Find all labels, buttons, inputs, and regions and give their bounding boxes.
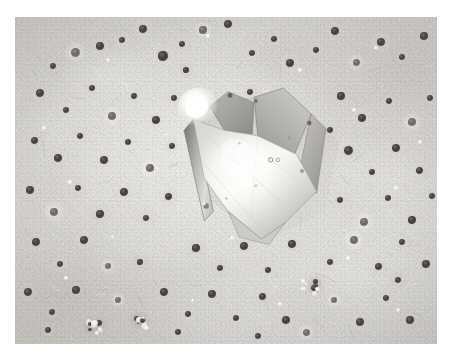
micrograph-image xyxy=(15,17,437,344)
image-vignette xyxy=(15,17,437,344)
screenshot-root xyxy=(0,0,453,360)
